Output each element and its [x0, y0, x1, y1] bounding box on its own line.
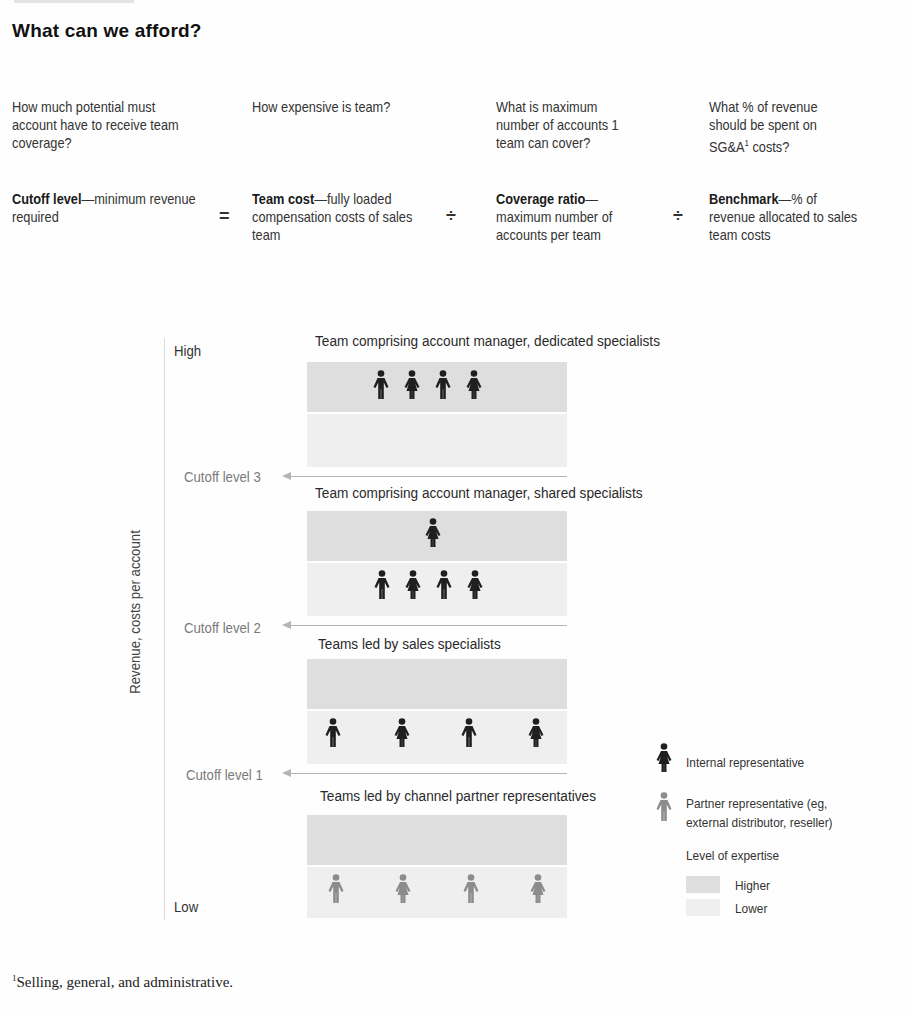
- internal-rep-female-icon: [467, 570, 483, 604]
- legend-partner-label-line2: external distributor, reseller): [686, 814, 833, 831]
- term-coverage: Coverage ratio: [496, 191, 585, 207]
- band-higher-expertise: [307, 815, 567, 865]
- cutoff-level-1-arrow: [284, 773, 567, 774]
- partner-rep-male-icon: [463, 874, 479, 908]
- footnote: 1Selling, general, and administrative.: [12, 973, 233, 991]
- legend-internal-label: Internal representative: [686, 754, 804, 771]
- internal-rep-female-icon: [425, 518, 441, 552]
- internal-rep-male-icon: [374, 570, 390, 604]
- lane-title-shared: Team comprising account manager, shared …: [315, 484, 643, 502]
- question-benchmark: What % of revenue should be spent on SG&…: [709, 98, 859, 156]
- divide-operator-1: ÷: [446, 206, 456, 227]
- axis-low-label: Low: [174, 898, 198, 915]
- term-team-cost: Team cost: [252, 191, 314, 207]
- term-cutoff: Cutoff level: [12, 191, 81, 207]
- cutoff-level-3-arrow: [284, 476, 567, 477]
- definition-coverage: Coverage ratio— maximum number of accoun…: [496, 190, 641, 244]
- footnote-text: Selling, general, and administrative.: [17, 974, 234, 990]
- definition-benchmark: Benchmark—% of revenue allocated to sale…: [709, 190, 863, 244]
- internal-rep-female-icon: [394, 718, 410, 752]
- equals-operator: =: [219, 206, 230, 227]
- question-benchmark-suffix: costs?: [749, 139, 789, 155]
- internal-rep-female-icon: [404, 370, 420, 404]
- legend-higher-label: Higher: [735, 877, 770, 894]
- band-higher-expertise: [307, 659, 567, 709]
- definition-cutoff: Cutoff level—minimum revenue required: [12, 190, 197, 226]
- question-cutoff: How much potential must account have to …: [12, 98, 179, 152]
- legend-internal-rep-icon: [656, 743, 672, 777]
- term-benchmark: Benchmark: [709, 191, 779, 207]
- partner-rep-male-icon: [328, 874, 344, 908]
- y-axis-line: [164, 338, 165, 920]
- legend-partner-rep-icon: [656, 792, 672, 826]
- legend-partner-label-line1: Partner representative (eg,: [686, 795, 827, 812]
- lane-title-sales-specialists: Teams led by sales specialists: [318, 635, 501, 653]
- cutoff-level-3-label: Cutoff level 3: [184, 468, 261, 485]
- band-lower-expertise: [307, 414, 567, 467]
- internal-rep-male-icon: [436, 570, 452, 604]
- internal-rep-male-icon: [461, 718, 477, 752]
- internal-rep-male-icon: [435, 370, 451, 404]
- internal-rep-male-icon: [325, 718, 341, 752]
- lane-title-channel-partners: Teams led by channel partner representat…: [320, 787, 596, 805]
- lane-title-dedicated: Team comprising account manager, dedicat…: [315, 332, 660, 350]
- divide-operator-2: ÷: [673, 206, 683, 227]
- definition-team-cost: Team cost—fully loaded compensation cost…: [252, 190, 419, 244]
- legend-expertise-title: Level of expertise: [686, 847, 779, 864]
- internal-rep-male-icon: [373, 370, 389, 404]
- partner-rep-female-icon: [395, 874, 411, 908]
- partner-rep-female-icon: [530, 874, 546, 908]
- cutoff-level-2-arrow: [284, 625, 567, 626]
- question-coverage: What is maximum number of accounts 1 tea…: [496, 98, 637, 152]
- legend-lower-label: Lower: [735, 900, 767, 917]
- cutoff-level-2-label: Cutoff level 2: [184, 619, 261, 636]
- band-lower-expertise: [307, 867, 567, 918]
- legend-higher-swatch: [686, 876, 720, 893]
- y-axis-label: Revenue, costs per account: [126, 530, 143, 694]
- cropped-text-fragment: [14, 0, 134, 3]
- page-title: What can we afford?: [12, 20, 202, 42]
- internal-rep-female-icon: [528, 718, 544, 752]
- internal-rep-female-icon: [405, 570, 421, 604]
- cutoff-level-1-label: Cutoff level 1: [186, 766, 263, 783]
- question-team-cost: How expensive is team?: [252, 98, 419, 116]
- internal-rep-female-icon: [466, 370, 482, 404]
- legend-lower-swatch: [686, 899, 720, 916]
- axis-high-label: High: [174, 342, 201, 359]
